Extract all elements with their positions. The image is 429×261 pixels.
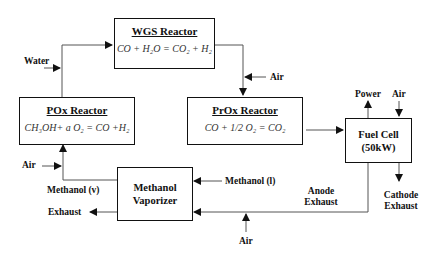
methanol-vaporizer-box: Methanol Vaporizer [117,167,193,221]
prox-reactor-title: PrOx Reactor [188,104,302,116]
air-prox-label: Air [270,72,284,82]
anode-exhaust-line1: Anode [304,186,338,197]
pox-reactor-title: POx Reactor [20,104,134,116]
vaporizer-to-pox-arrow [63,145,117,180]
vaporizer-label-1: Methanol [118,181,192,194]
fuel-cell-box: Fuel Cell (50kW) [345,118,412,163]
cathode-exhaust-label: Cathode Exhaust [382,190,420,212]
prox-reactor-equation: CO + 1/2 O₂ = CO₂ [188,122,302,133]
fuel-cell-label: Fuel Cell [346,128,411,141]
exhaust-label: Exhaust [48,207,81,217]
cathode-exhaust-line2: Exhaust [382,201,420,212]
air-bottom-label: Air [239,236,253,246]
power-label: Power [355,89,381,99]
wgs-reactor-equation: CO + H₂O = CO₂ + H₂ [115,43,214,54]
methanol-liquid-label: Methanol (l) [225,176,275,186]
water-label: Water [24,56,49,66]
cathode-exhaust-line1: Cathode [382,190,420,201]
wgs-to-prox-arrow [214,45,243,95]
air-fuelcell-label: Air [392,89,406,99]
vaporizer-label-2: Vaporizer [118,194,192,207]
anode-exhaust-arrow [194,162,368,212]
pox-reactor-box: POx Reactor CH₃OH+ a O₂ = CO +H₂ [19,97,135,145]
anode-exhaust-label: Anode Exhaust [304,186,338,208]
wgs-reactor-title: WGS Reactor [115,25,214,37]
fuel-cell-rating: (50kW) [346,141,411,154]
air-pox-label: Air [22,160,36,170]
pox-reactor-equation: CH₃OH+ a O₂ = CO +H₂ [20,122,134,133]
pox-to-wgs-arrow [62,45,112,97]
wgs-reactor-box: WGS Reactor CO + H₂O = CO₂ + H₂ [114,18,215,69]
methanol-vapor-label: Methanol (v) [47,185,100,195]
anode-exhaust-line2: Exhaust [304,197,338,208]
prox-reactor-box: PrOx Reactor CO + 1/2 O₂ = CO₂ [187,97,303,145]
